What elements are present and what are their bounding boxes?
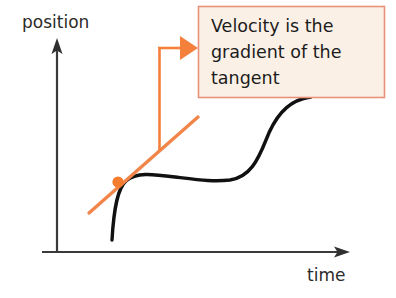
callout-arrowhead	[180, 36, 198, 60]
callout-line-1: Velocity is the	[211, 16, 333, 36]
x-axis-label: time	[307, 265, 345, 285]
diagram-canvas: position time Velocity is the gradient o…	[0, 0, 396, 298]
tangent-line	[89, 117, 198, 213]
callout-line-2: gradient of the	[211, 42, 341, 62]
physics-diagram: position time Velocity is the gradient o…	[0, 0, 396, 298]
tangent-point	[112, 176, 123, 187]
y-axis-label: position	[22, 12, 89, 32]
callout-line-3: tangent	[211, 68, 280, 88]
